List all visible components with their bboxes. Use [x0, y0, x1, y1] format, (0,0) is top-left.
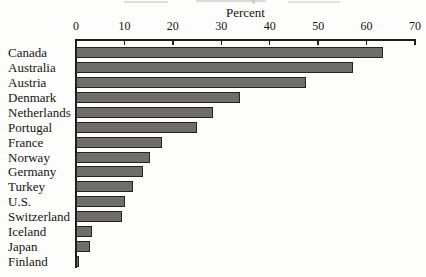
bar	[76, 166, 143, 177]
bar	[76, 226, 92, 237]
cropped-text-artifact	[196, 0, 266, 2]
cropped-text-artifact	[124, 1, 168, 3]
country-label: Finland	[8, 254, 48, 269]
country-label: Austria	[8, 75, 46, 90]
x-tick-label: 60	[352, 19, 382, 33]
bar	[76, 241, 90, 252]
x-tick-label: 30	[206, 19, 236, 33]
x-tick-label: 0	[61, 19, 91, 33]
country-label: Germany	[8, 164, 56, 179]
country-label: Australia	[8, 60, 56, 75]
country-label: Japan	[8, 239, 38, 254]
x-axis-title: Percent	[76, 5, 415, 20]
bar	[76, 122, 197, 133]
x-axis-line	[75, 39, 416, 41]
bar	[76, 181, 133, 192]
country-label: France	[8, 135, 43, 150]
country-label: Portugal	[8, 120, 52, 135]
bar	[76, 256, 79, 267]
country-label: Switzerland	[8, 209, 70, 224]
x-tick-label: 40	[255, 19, 285, 33]
x-tick-label: 70	[400, 19, 426, 33]
country-label: Canada	[8, 45, 47, 60]
bar	[76, 211, 122, 222]
cropped-text-artifact	[252, 0, 255, 4]
country-label: Norway	[8, 150, 50, 165]
bar	[76, 196, 125, 207]
bar	[76, 62, 353, 73]
bar	[76, 92, 240, 103]
x-tick-label: 20	[158, 19, 188, 33]
bar	[76, 152, 150, 163]
country-label: Turkey	[8, 179, 45, 194]
cropped-text-artifact	[288, 1, 340, 3]
bar	[76, 137, 162, 148]
x-tick-label: 50	[303, 19, 333, 33]
bar	[76, 47, 383, 58]
bar	[76, 107, 213, 118]
country-label: Iceland	[8, 224, 46, 239]
country-label: Denmark	[8, 90, 56, 105]
x-tick-label: 10	[109, 19, 139, 33]
country-label: U.S.	[8, 194, 31, 209]
country-label: Netherlands	[8, 105, 71, 120]
bar	[76, 77, 306, 88]
